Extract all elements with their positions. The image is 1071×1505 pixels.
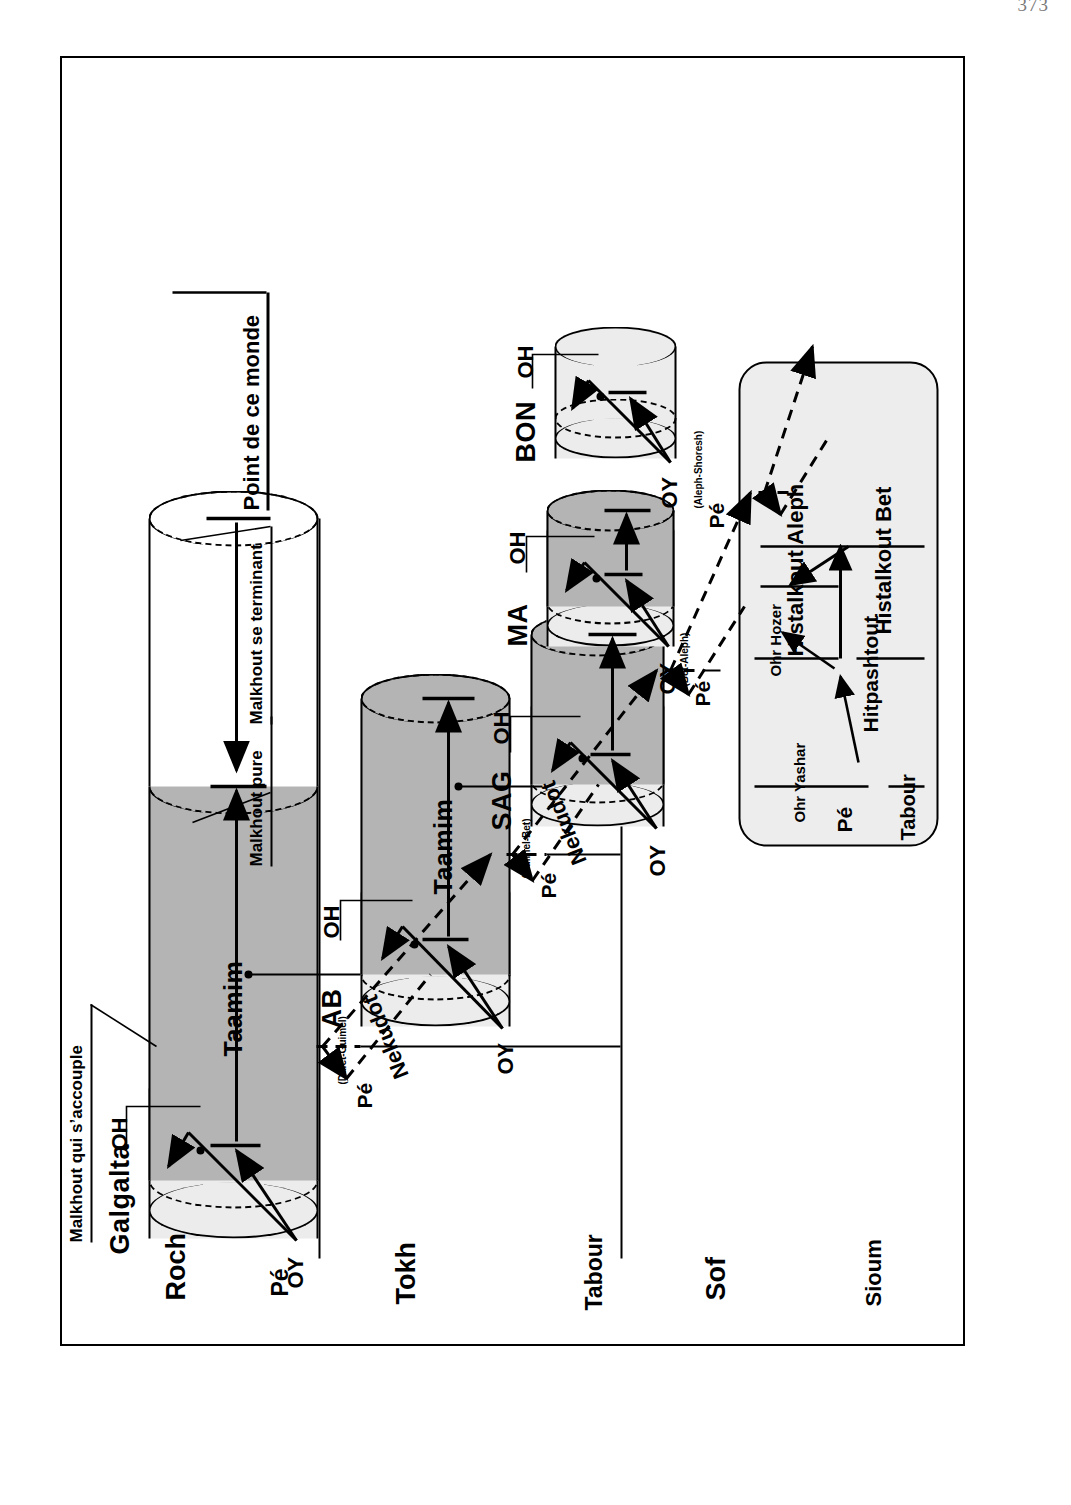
behina-label-guimel-bet: (Guimel-Bet) bbox=[520, 818, 531, 878]
partsouf-title-bon: BON bbox=[510, 401, 541, 463]
behina-label-bet-aleph: (Bet-Aleph) bbox=[678, 632, 689, 686]
legend-label-pe: Pé bbox=[832, 806, 856, 832]
callout-malkhout-accouple: Malkhout qui s’accouple bbox=[66, 1045, 86, 1242]
behina-label-aleph-shoresh: (Aleph-Shoresh) bbox=[692, 430, 703, 508]
pe-label-ma: Pé bbox=[704, 502, 728, 528]
pe-label-ab: Pé bbox=[536, 872, 560, 898]
legend-label-ohr-hozer: Ohr Hozer bbox=[766, 603, 783, 676]
ray-label-oy-ab: OY bbox=[492, 1042, 518, 1074]
callout-rule-pure bbox=[270, 716, 272, 866]
galgalta-sioum-hidden-edge bbox=[148, 490, 318, 546]
callout-malkhout-terminant: Malkhout se terminant bbox=[246, 544, 266, 724]
inner-label-taamim-ab: Taamim bbox=[428, 798, 457, 894]
ray-label-oh-sag: OH bbox=[488, 711, 514, 744]
ma-tabour-hidden-edge bbox=[546, 489, 674, 531]
ray-label-oy-sag: OY bbox=[644, 844, 670, 876]
ray-label-oh-bon: OH bbox=[512, 345, 538, 378]
behina-label-dalet-guimel: (Dalet-Guimel) bbox=[336, 1016, 347, 1084]
legend-label-histalkout-aleph: Histalkout Aleph bbox=[782, 483, 808, 656]
cylinder-galgalta-sof bbox=[148, 518, 318, 786]
row-label-pe: Pé bbox=[266, 1268, 293, 1296]
callout-rule-terminant bbox=[270, 526, 272, 724]
page-number: 373 bbox=[1018, 0, 1050, 16]
ray-label-oh-ab: OH bbox=[318, 905, 344, 938]
legend-label-tabour: Tabour bbox=[896, 774, 919, 840]
ab-tabour-hidden-edge bbox=[360, 673, 510, 723]
ray-label-oh-galgalta: OH bbox=[106, 1117, 132, 1150]
callout-point-de-ce-monde: Point de ce monde bbox=[238, 314, 264, 510]
callout-rule-accouple bbox=[90, 1004, 92, 1242]
ray-label-oh-ma: OH bbox=[504, 531, 530, 564]
row-label-sof: Sof bbox=[700, 1257, 731, 1301]
legend-label-histalkout-bet: Histalkout Bet bbox=[870, 486, 896, 634]
figure-plate: Galgalta OY OH Taamim AB OY OH Taamim SA… bbox=[60, 56, 965, 1346]
pe-label-galgalta: Pé bbox=[352, 1082, 376, 1108]
callout-malkhout-pure: Malkhout pure bbox=[246, 750, 266, 866]
ray-label-oy-bon: OY bbox=[656, 476, 682, 508]
pe-label-sag: Pé bbox=[690, 680, 714, 706]
legend-label-hitpashtout: Hitpashtout bbox=[858, 615, 882, 732]
diagram-canvas: Galgalta OY OH Taamim AB OY OH Taamim SA… bbox=[60, 56, 965, 1346]
row-label-tokh: Tokh bbox=[390, 1242, 421, 1305]
partsouf-title-ma: MA bbox=[502, 603, 533, 646]
cylinder-sag-taamim bbox=[530, 634, 664, 784]
row-label-roch: Roch bbox=[160, 1233, 191, 1301]
legend-label-ohr-yashar: Ohr Yashar bbox=[790, 742, 807, 822]
inner-label-taamim-galgalta: Taamim bbox=[218, 960, 247, 1056]
row-label-sioum: Sioum bbox=[860, 1239, 886, 1306]
row-label-tabour: Tabour bbox=[580, 1234, 607, 1310]
partsouf-title-sag: SAG bbox=[486, 770, 517, 830]
callout-rule-point bbox=[266, 292, 269, 510]
ray-label-oy-ma: OY bbox=[654, 662, 680, 694]
bon-roch-hidden-edge bbox=[554, 398, 676, 438]
legend-box: Ohr Yashar Ohr Hozer Histalkout Aleph Hi… bbox=[738, 361, 938, 846]
partsouf-title-galgalta: Galgalta bbox=[104, 1143, 135, 1254]
